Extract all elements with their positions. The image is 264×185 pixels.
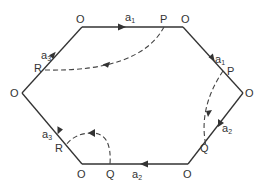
point-label-q-bottom: Q (106, 168, 115, 180)
point-label-r-upper: R (34, 62, 42, 74)
vertex-label-top-left: O (76, 13, 85, 25)
arrow-dashed-bottom-icon (88, 129, 95, 137)
dashed-path-arrows (88, 62, 212, 137)
dashed-paths (45, 27, 223, 164)
arrow-a2-bottom-icon (140, 161, 148, 168)
vertex-label-bottom-right: O (183, 168, 192, 180)
vector-label-a1-right: a1 (215, 53, 225, 66)
vector-label-a1-top: a1 (125, 11, 135, 24)
vertex-label-bottom-left: O (77, 168, 86, 180)
dashed-path-q-to-r-lower (66, 133, 110, 164)
point-label-p-right: P (227, 65, 234, 77)
arrow-dashed-right-icon (206, 110, 212, 117)
vector-label-a2-right: a2 (222, 122, 232, 135)
point-label-r-lower: R (55, 142, 63, 154)
edge-lower-right (188, 93, 243, 164)
vector-labels: a1 a1 a2 a2 a3 a3 (41, 11, 232, 181)
vertex-label-right: O (245, 87, 254, 99)
hexagon-diagram: O O O O O O P P Q Q R R a1 a1 a2 a2 a3 a… (0, 0, 264, 185)
edge-arrows (49, 24, 224, 168)
point-label-q-right: Q (200, 142, 209, 154)
vertex-label-left: O (10, 87, 19, 99)
edge-upper-left (22, 27, 82, 93)
vector-label-a3-upper: a3 (41, 49, 51, 62)
vector-label-a3-lower: a3 (42, 128, 52, 141)
vertex-label-top-right: O (181, 13, 190, 25)
vector-label-a2-bottom: a2 (132, 168, 142, 181)
dashed-path-p-to-q-right (204, 71, 223, 146)
diagram-svg: O O O O O O P P Q Q R R a1 a1 a2 a2 a3 a… (0, 0, 264, 185)
edge-lower-left (22, 93, 82, 164)
vertex-labels: O O O O O O (10, 13, 254, 180)
point-labels: P P Q Q R R (34, 13, 234, 180)
point-label-p-top: P (160, 13, 167, 25)
arrow-a1-top-icon (118, 24, 126, 31)
arrow-a3-lower-icon (56, 125, 63, 134)
